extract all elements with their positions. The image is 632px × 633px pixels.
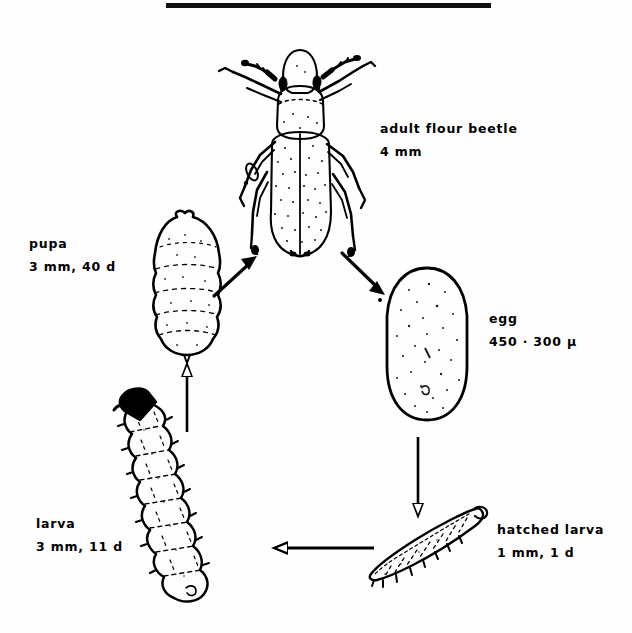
arrow-layer — [0, 0, 632, 633]
figure-canvas: adult flour beetle 4 mm — [0, 0, 632, 633]
arrow-larva-to-pupa — [181, 361, 193, 432]
arrow-adult-to-egg — [342, 253, 385, 302]
arrow-egg-to-hatched — [412, 437, 424, 519]
arrow-pupa-to-adult — [214, 256, 257, 296]
arrow-hatched-to-larva — [271, 541, 374, 555]
